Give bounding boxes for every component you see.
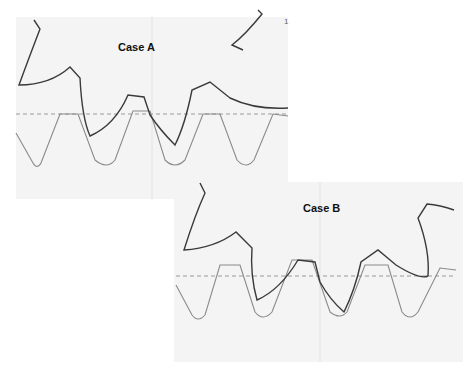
panel-case-a: Case A 1 bbox=[16, 10, 289, 210]
panel-b-label: Case B bbox=[303, 202, 340, 214]
corner-mark: 1 bbox=[284, 17, 289, 26]
diagram-canvas: Case A 1 Case B bbox=[0, 0, 473, 375]
panel-case-b: Case B bbox=[174, 182, 463, 362]
panel-a-label: Case A bbox=[118, 41, 155, 53]
